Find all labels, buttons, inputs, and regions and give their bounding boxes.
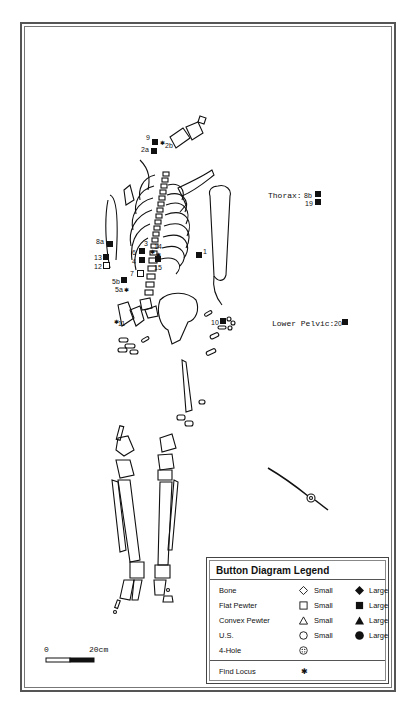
legend-row-us: U.S. Small Large: [219, 628, 384, 643]
legend-title: Button Diagram Legend: [210, 561, 385, 580]
button-marker-12: [103, 262, 110, 269]
legend-row-4-hole: 4-Hole: [219, 643, 384, 658]
button-marker-1: [196, 252, 202, 258]
legend-divider: [210, 660, 385, 661]
button-marker-10: [220, 318, 226, 324]
circle-outline-icon: [299, 631, 308, 640]
find-locus-icon: ✱: [124, 287, 129, 293]
thorax-label: Thorax:: [268, 191, 302, 200]
diamond-outline-icon: [299, 586, 308, 595]
femur: [182, 360, 205, 412]
foot-right: [154, 565, 173, 602]
button-marker-8a: [107, 241, 113, 247]
marker-label-8a: 8a: [96, 238, 104, 246]
marker-label-2b: 2b: [165, 142, 173, 150]
small-label: Small: [314, 583, 333, 598]
square-outline-icon: [299, 601, 308, 610]
button-marker-6: [139, 248, 145, 254]
lower-pelvic-label: Lower Pelvic:: [272, 319, 334, 328]
marker-label-2a: 2a: [141, 146, 149, 154]
marker-label-1: 1: [203, 248, 207, 256]
legend-row-name: Convex Pewter: [219, 613, 270, 628]
button-marker-20: [342, 319, 348, 325]
small-label: Small: [314, 628, 333, 643]
legend-row-name: Bone: [219, 583, 237, 598]
legend-row-convex-pewter: Convex Pewter Small Large: [219, 613, 384, 628]
marker-label-11: 11: [118, 320, 125, 328]
marker-label-9: 9: [146, 134, 150, 142]
small-label: Small: [314, 598, 333, 613]
button-marker-9: [152, 139, 158, 145]
north-arrow-icon: [268, 468, 328, 510]
marker-label-15: 15: [154, 264, 162, 272]
legend-box: Button Diagram Legend Bone Small Large F…: [206, 557, 389, 684]
square-filled-icon: [355, 601, 364, 610]
small-label: Small: [314, 613, 333, 628]
legend-row-name: 4-Hole: [219, 643, 241, 658]
marker-label-3: 3: [144, 240, 148, 248]
marker-label-7: 7: [130, 270, 134, 278]
triangle-outline-icon: [299, 616, 308, 625]
button-marker-5b: [121, 277, 127, 283]
diamond-filled-icon: [355, 586, 364, 595]
four-hole-button-icon: [299, 646, 308, 655]
lower-pelvic-item-20: 20: [334, 320, 342, 328]
legend-row-find-locus: Find Locus ✱: [219, 664, 384, 679]
circle-filled-icon: [355, 631, 364, 640]
pelvis: [118, 293, 198, 344]
scale-bar: [46, 658, 94, 662]
button-marker-15: [155, 256, 161, 262]
scale-start-label: 0: [44, 645, 49, 654]
legend-row-name: U.S.: [219, 628, 234, 643]
legend-row-bone: Bone Small Large: [219, 583, 384, 598]
button-marker-2a: [151, 148, 157, 154]
knee-left: [116, 426, 134, 478]
marker-label-12: 12: [94, 263, 102, 271]
marker-label-10: 10: [211, 319, 219, 327]
foot-left: [114, 562, 145, 614]
right-arm: [178, 170, 230, 305]
thorax-item-8b: 8b: [304, 192, 312, 200]
tibia-fibula-right: [158, 480, 178, 565]
skull-fragments: [170, 116, 206, 148]
button-marker-7: [137, 270, 144, 277]
large-label: Large: [369, 598, 388, 613]
ribs-left: [124, 175, 155, 270]
legend-row-name: Flat Pewter: [219, 598, 257, 613]
triangle-filled-icon: [355, 616, 364, 625]
tibia-fibula-left: [112, 480, 140, 562]
button-marker-13: [103, 254, 109, 260]
legend-row-name: Find Locus: [219, 664, 256, 679]
asterisk-icon: ✱: [301, 664, 308, 679]
marker-label-4: 4: [132, 258, 136, 266]
legend-row-flat-pewter: Flat Pewter Small Large: [219, 598, 384, 613]
button-marker-8b: [315, 191, 321, 197]
hand-bones: [118, 310, 235, 356]
large-label: Large: [369, 613, 388, 628]
large-label: Large: [369, 583, 388, 598]
marker-label-5b: 5b: [112, 278, 120, 286]
marker-label-5a: 5a: [115, 286, 123, 294]
spine: [145, 172, 169, 295]
button-marker-19: [315, 199, 321, 205]
button-marker-4: [139, 257, 145, 263]
marker-label-14: 14: [154, 243, 162, 251]
marker-label-6: 6: [132, 249, 136, 257]
thorax-item-19: 19: [305, 200, 313, 208]
marker-label-13: 13: [94, 254, 102, 262]
knee-right: [158, 415, 193, 480]
large-label: Large: [369, 628, 388, 643]
scale-end-label: 20cm: [89, 645, 108, 654]
